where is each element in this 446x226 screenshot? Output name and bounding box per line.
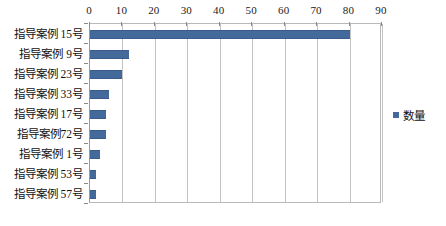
x-axis-tick (251, 22, 252, 26)
category-label: 指导案例 1号 (19, 145, 83, 161)
x-axis-tick-label: 80 (343, 4, 354, 16)
y-axis-tick (84, 43, 88, 44)
y-axis-tick (84, 203, 88, 204)
x-axis-tick-label: 70 (310, 4, 321, 16)
y-axis-category-labels: 指导案例 15号指导案例 9号指导案例 23号指导案例 33号指导案例 17号指… (0, 23, 86, 203)
x-axis-tick (121, 22, 122, 26)
category-label: 指导案例72号 (17, 125, 84, 141)
plot-area (89, 23, 381, 203)
y-axis-tick (84, 123, 88, 124)
bar (90, 110, 106, 119)
legend-label: 数量 (403, 107, 425, 123)
bar (90, 70, 122, 79)
y-axis-tick (84, 23, 88, 24)
y-axis-tick (84, 183, 88, 184)
bar-series-group (90, 24, 380, 202)
bar-chart: 0102030405060708090 指导案例 15号指导案例 9号指导案例 … (0, 0, 446, 226)
x-axis-tick (186, 22, 187, 26)
x-axis-tick-label: 60 (278, 4, 289, 16)
x-axis-tick-label: 40 (213, 4, 224, 16)
gridline (382, 24, 383, 202)
category-label: 指导案例 53号 (14, 165, 83, 181)
bar (90, 130, 106, 139)
x-axis-tick (89, 22, 90, 26)
legend-swatch-icon (393, 112, 399, 118)
y-axis-tick (84, 103, 88, 104)
x-axis-tick-label: 10 (116, 4, 127, 16)
bar (90, 50, 129, 59)
bar (90, 30, 350, 39)
x-axis-tick-label: 90 (375, 4, 386, 16)
category-label: 指导案例 15号 (14, 25, 83, 41)
bar (90, 190, 96, 199)
chart-legend: 数量 (393, 107, 425, 123)
y-axis-tick (84, 83, 88, 84)
x-axis-tick-label: 50 (246, 4, 257, 16)
x-axis-tick (219, 22, 220, 26)
category-label: 指导案例 33号 (14, 85, 83, 101)
x-axis-tick (316, 22, 317, 26)
category-label: 指导案例 57号 (14, 185, 83, 201)
y-axis-tick (84, 63, 88, 64)
x-axis-tick-label: 0 (86, 4, 92, 16)
y-axis-tick (84, 163, 88, 164)
y-axis-tick (84, 143, 88, 144)
x-axis-tick (381, 22, 382, 26)
bar (90, 170, 96, 179)
bar (90, 90, 109, 99)
category-label: 指导案例 23号 (14, 65, 83, 81)
x-axis-tick (284, 22, 285, 26)
x-axis-tick (154, 22, 155, 26)
x-axis-tick (349, 22, 350, 26)
x-axis-tick-label: 30 (181, 4, 192, 16)
x-axis-tick-label: 20 (148, 4, 159, 16)
category-label: 指导案例 9号 (19, 45, 83, 61)
bar (90, 150, 100, 159)
category-label: 指导案例 17号 (14, 105, 83, 121)
